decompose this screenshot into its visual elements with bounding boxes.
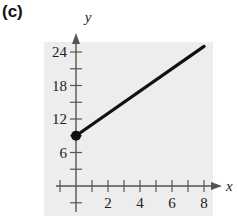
y-tick-label: 24: [52, 44, 68, 60]
y-tick-label: 12: [52, 111, 67, 127]
x-tick-label: 8: [200, 195, 208, 211]
line-chart: 24686121824xy: [0, 0, 237, 220]
y-tick-label: 18: [52, 78, 67, 94]
x-axis-arrow-icon: [211, 182, 222, 190]
y-axis-arrow-icon: [72, 33, 80, 44]
x-axis-label: x: [225, 178, 233, 194]
x-tick-label: 6: [168, 195, 176, 211]
x-tick-label: 2: [104, 195, 112, 211]
y-tick-label: 6: [60, 145, 68, 161]
closed-endpoint-dot: [71, 131, 81, 141]
y-axis-label: y: [83, 9, 92, 25]
x-tick-label: 4: [136, 195, 144, 211]
